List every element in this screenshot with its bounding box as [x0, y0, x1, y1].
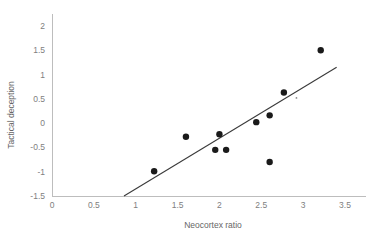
regression-line — [124, 67, 337, 196]
data-point — [266, 112, 272, 118]
artifact-dot — [296, 97, 298, 99]
data-point — [183, 134, 189, 140]
axes — [52, 14, 366, 196]
chart-canvas: 00.511.522.533.5 -1.5-1-0.500.511.52 Neo… — [0, 0, 389, 238]
x-tick-label: 2.5 — [255, 200, 267, 210]
y-tick-label: -1 — [37, 167, 45, 177]
data-point — [281, 89, 287, 95]
x-tick-label: 1.5 — [172, 200, 184, 210]
y-tick-label: 2 — [40, 21, 45, 31]
data-points — [151, 47, 324, 174]
x-axis-ticks: 00.511.522.533.5 — [50, 200, 352, 210]
x-tick-label: 0 — [50, 200, 55, 210]
x-tick-label: 0.5 — [88, 200, 100, 210]
data-point — [253, 119, 259, 125]
y-tick-label: -0.5 — [30, 142, 45, 152]
data-point — [151, 168, 157, 174]
data-point — [266, 159, 272, 165]
y-tick-label: 1.5 — [33, 45, 45, 55]
y-tick-label: 0.5 — [33, 94, 45, 104]
y-axis-label: Tactical deception — [6, 81, 16, 149]
artifact-marks — [296, 97, 298, 99]
y-tick-label: -1.5 — [30, 191, 45, 201]
data-point — [216, 131, 222, 137]
x-tick-label: 2 — [217, 200, 222, 210]
scatter-chart: 00.511.522.533.5 -1.5-1-0.500.511.52 Neo… — [0, 0, 389, 238]
x-tick-label: 3 — [301, 200, 306, 210]
y-axis-ticks: -1.5-1-0.500.511.52 — [30, 21, 45, 201]
x-axis-label: Neocortex ratio — [184, 220, 242, 230]
y-tick-label: 1 — [40, 70, 45, 80]
y-tick-label: 0 — [40, 118, 45, 128]
data-point — [223, 147, 229, 153]
data-point — [212, 147, 218, 153]
x-tick-label: 3.5 — [339, 200, 351, 210]
x-tick-label: 1 — [133, 200, 138, 210]
data-point — [318, 47, 324, 53]
trend-line — [124, 67, 337, 196]
